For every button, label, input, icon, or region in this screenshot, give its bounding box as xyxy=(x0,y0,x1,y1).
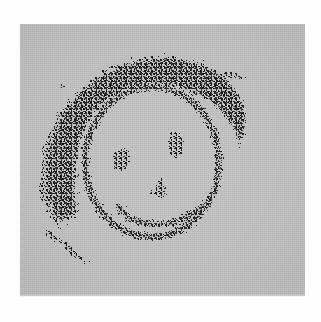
photograph-panel xyxy=(20,24,305,296)
face-outline-speckle xyxy=(85,87,219,237)
smiley-face-drawing xyxy=(20,24,305,296)
image-page xyxy=(0,0,321,322)
stray-speck xyxy=(61,84,66,89)
left-eye xyxy=(112,149,130,171)
nose xyxy=(151,176,167,197)
caption-band xyxy=(22,305,297,316)
right-eye xyxy=(168,132,184,158)
